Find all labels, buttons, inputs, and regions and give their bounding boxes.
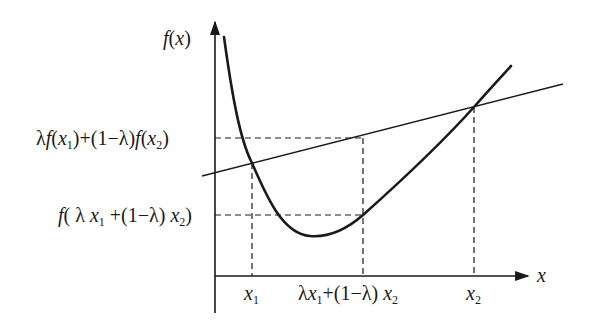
x-tick-x1: x1 (243, 282, 259, 307)
x-axis-label: x (536, 264, 546, 286)
y-axis-label: f(x) (163, 27, 191, 50)
x-tick-convex-combination: λx1+(1−λ) x2 (298, 282, 398, 307)
convex-curve (224, 37, 511, 236)
y-tick-chord-value: λf(x1)+(1−λ)f(x2) (36, 127, 169, 152)
y-tick-function-value: f( λ x1 +(1−λ) x2) (58, 204, 192, 229)
guide-lines (215, 107, 474, 276)
secant-line (202, 84, 563, 176)
x-tick-x2: x2 (465, 282, 481, 307)
convexity-diagram: f(x) x λf(x1)+(1−λ)f(x2) f( λ x1 +(1−λ) … (0, 0, 595, 329)
